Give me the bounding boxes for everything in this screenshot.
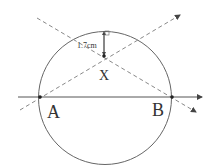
geometry-diagram: 1.7cm X A B	[0, 0, 215, 168]
point-a	[38, 95, 42, 99]
label-b: B	[152, 100, 164, 120]
label-x: X	[99, 68, 109, 83]
circle	[39, 32, 172, 165]
label-a: A	[47, 102, 60, 122]
measurement-label: 1.7cm	[77, 41, 98, 50]
point-x	[102, 54, 106, 58]
point-b	[170, 95, 174, 99]
dashed-line-ascending	[20, 15, 180, 110]
